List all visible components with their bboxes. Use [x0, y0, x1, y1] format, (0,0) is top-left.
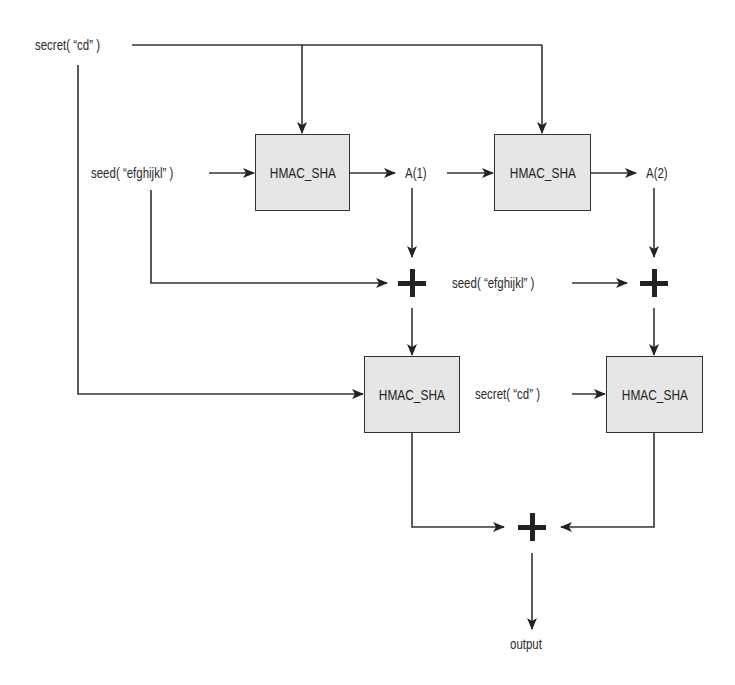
- edge-secret-to-hmac3: [78, 65, 363, 394]
- a2-label: A(2): [646, 165, 668, 181]
- hmac-sha-box-1: HMAC_SHA: [255, 134, 350, 211]
- connector-lines: [0, 0, 735, 685]
- hmac-sha-label: HMAC_SHA: [509, 165, 575, 181]
- secret-input-label: secret( “cd” ): [35, 37, 100, 53]
- plus-icon-3: [518, 513, 546, 541]
- edge-hmac3-to-plus3: [412, 432, 504, 527]
- seed-input-label-right: seed( “efghijkl” ): [452, 275, 534, 291]
- hmac-sha-label: HMAC_SHA: [621, 387, 687, 403]
- hmac-sha-label: HMAC_SHA: [379, 387, 445, 403]
- secret-input-label-right: secret( “cd” ): [475, 386, 540, 402]
- hmac-sha-label: HMAC_SHA: [269, 165, 335, 181]
- edge-hmac4-to-plus3: [561, 432, 654, 527]
- hmac-sha-box-3: HMAC_SHA: [364, 356, 460, 433]
- a1-label: A(1): [405, 165, 427, 181]
- hmac-sha-box-4: HMAC_SHA: [606, 356, 703, 433]
- hmac-sha-box-2: HMAC_SHA: [494, 134, 591, 211]
- plus-icon-2: [640, 269, 668, 297]
- output-label: output: [510, 636, 542, 652]
- plus-icon-1: [398, 269, 426, 297]
- seed-input-label: seed( “efghijkl” ): [91, 165, 173, 181]
